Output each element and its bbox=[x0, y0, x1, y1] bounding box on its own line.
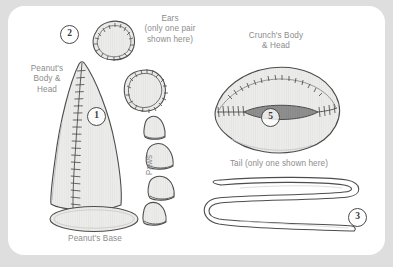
label-paws: Paws bbox=[145, 135, 155, 195]
label-ears: Ears (only one pair shown here) bbox=[131, 14, 209, 45]
callout-number-3: 3 bbox=[348, 208, 367, 227]
label-crunch-body-head: Crunch's Body & Head bbox=[226, 31, 326, 52]
callout-number-5: 5 bbox=[261, 108, 280, 127]
callout-number-1: 1 bbox=[87, 107, 106, 126]
callout-number-2: 2 bbox=[60, 25, 79, 44]
label-peanut-body-head: Peanut's Body & Head bbox=[16, 64, 78, 95]
label-tail: Tail (only one shown here) bbox=[213, 159, 345, 169]
label-peanut-base: Peanut's Base bbox=[44, 234, 146, 244]
pattern-diagram-stage: Peanut's Body & Head Ears (only one pair… bbox=[0, 0, 393, 267]
